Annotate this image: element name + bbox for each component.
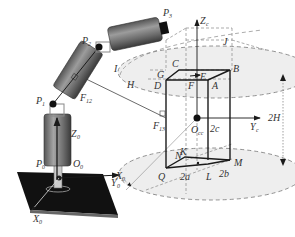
- label-H: H: [126, 79, 135, 90]
- label-Q: Q: [158, 171, 166, 182]
- label-G: G: [157, 69, 164, 80]
- label-P2: P2: [81, 35, 91, 47]
- point-K: [197, 162, 199, 164]
- svg-text:0: 0: [80, 164, 83, 170]
- label-F12: F12: [79, 92, 92, 104]
- svg-text:13: 13: [159, 126, 165, 132]
- dim-label-2a: 2a: [180, 171, 190, 182]
- label-M: M: [233, 157, 243, 168]
- label-I: I: [113, 63, 118, 74]
- robot-workspace-diagram: P3 P2 P1 F12 F13 Z0 P0 O0 X0 Y0 X0 Zc Yc…: [0, 0, 295, 237]
- label-Occ: Occ: [191, 124, 204, 136]
- label-E: E: [199, 71, 206, 82]
- label-D: D: [153, 80, 162, 91]
- svg-text:c: c: [206, 21, 209, 27]
- label-C: C: [172, 58, 179, 69]
- svg-text:0: 0: [122, 176, 125, 182]
- svg-text:0: 0: [77, 134, 80, 140]
- label-A: A: [211, 80, 219, 91]
- label-P3: P3: [162, 7, 172, 19]
- upper-workspace-ellipse: [118, 46, 295, 98]
- dim-label-2H: 2H: [268, 112, 281, 123]
- svg-text:0: 0: [117, 183, 120, 189]
- svg-text:c: c: [256, 127, 259, 133]
- label-F13: F13: [152, 120, 165, 132]
- label-N: N: [174, 150, 183, 161]
- label-F: F: [187, 80, 195, 91]
- label-P0: P0: [35, 158, 45, 170]
- label-L: L: [205, 171, 212, 182]
- center-point-occ: [194, 115, 201, 122]
- label-O0: O0: [73, 158, 83, 170]
- svg-text:0: 0: [42, 164, 45, 170]
- label-Z0: Z0: [71, 128, 80, 140]
- label-Yc: Yc: [250, 121, 259, 133]
- joint-P2: [96, 44, 103, 51]
- label-Zc: Zc: [200, 15, 209, 27]
- base-plate: [17, 172, 118, 215]
- link-2-cylinder: [107, 17, 163, 51]
- svg-text:2: 2: [88, 41, 91, 47]
- svg-text:3: 3: [168, 13, 172, 19]
- svg-text:1: 1: [42, 101, 45, 107]
- dim-label-2b: 2b: [219, 168, 229, 179]
- label-B: B: [233, 63, 239, 74]
- svg-text:cc: cc: [198, 130, 204, 136]
- svg-text:0: 0: [39, 219, 42, 225]
- label-J: J: [223, 36, 228, 47]
- label-P1: P1: [35, 95, 45, 107]
- label-X0: X0: [32, 213, 42, 225]
- svg-text:12: 12: [86, 98, 92, 104]
- dim-label-2c: 2c: [210, 123, 220, 134]
